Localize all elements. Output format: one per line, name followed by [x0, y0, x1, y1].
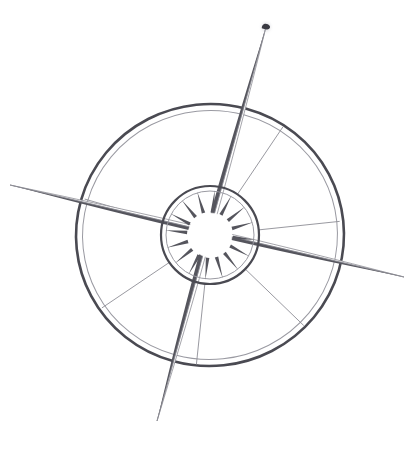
compass-figure: Compass rose with sixteen-point sunburst…	[0, 0, 419, 449]
center-disc	[188, 213, 232, 257]
north-finial-icon	[258, 19, 274, 35]
compass-rose-illustration	[0, 0, 419, 449]
